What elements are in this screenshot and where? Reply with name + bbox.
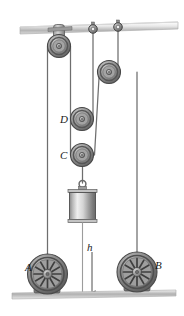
pulley-d-label: D bbox=[59, 113, 68, 125]
ceiling-beam bbox=[20, 22, 178, 34]
ceiling-anchor-left bbox=[89, 22, 98, 33]
rope-upper-to-c-right bbox=[95, 78, 100, 155]
pulley-d bbox=[71, 108, 94, 131]
wheel-b-label: B bbox=[155, 259, 162, 271]
spoked-wheel-b bbox=[117, 252, 157, 292]
spoked-wheel-a bbox=[28, 254, 68, 294]
pulley-c bbox=[71, 144, 94, 167]
height-label: h bbox=[87, 241, 93, 253]
pulley-system-figure: D C h A B bbox=[0, 0, 184, 316]
pulley-top-left bbox=[48, 25, 73, 58]
pulley-upper-right bbox=[98, 61, 121, 84]
diagram-canvas: D C h A B bbox=[0, 0, 184, 316]
hanging-weight-block bbox=[68, 181, 97, 292]
pulley-c-label: C bbox=[60, 149, 68, 161]
ceiling-anchor-right bbox=[114, 20, 123, 31]
wheel-a-label: A bbox=[24, 261, 32, 273]
